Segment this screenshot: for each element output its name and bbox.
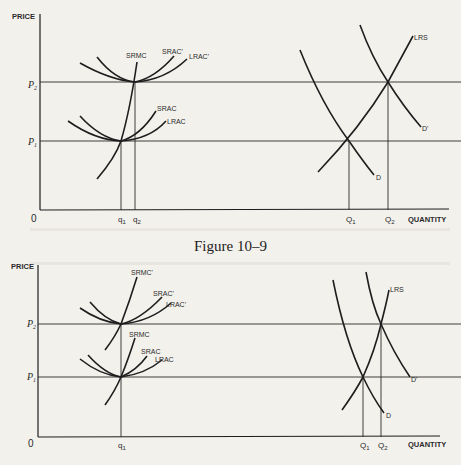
bottom-Q2-label: Q2 xyxy=(378,441,388,451)
top-demand-prime-label: D' xyxy=(422,125,428,132)
figure-page: PRICE QUANTITY 0 P2 P1 q1 q2 Q1 Q2 SRAC'… xyxy=(0,0,461,465)
bottom-lrs-label: LRS xyxy=(390,286,404,293)
top-lrs-curve xyxy=(318,36,413,172)
top-x-axis-label: QUANTITY xyxy=(408,215,446,224)
bottom-p2-label: P2 xyxy=(26,318,36,330)
top-lrac-prime-label: LRAC' xyxy=(189,53,209,60)
top-srac-prime-label: SRAC' xyxy=(162,48,183,55)
figure-caption: Figure 10–9 xyxy=(0,238,461,255)
bottom-demand-label: D xyxy=(386,412,391,419)
top-y-axis-label: PRICE xyxy=(12,12,35,21)
top-lrs-label: LRS xyxy=(414,34,428,41)
top-srmc-label: SRMC xyxy=(126,52,147,59)
top-lrac-curve xyxy=(68,121,166,141)
bottom-lrac-label: LRAC xyxy=(155,356,174,363)
bottom-q1-label: q1 xyxy=(118,441,126,451)
top-demand-label: D xyxy=(376,174,381,181)
top-diagram: PRICE QUANTITY 0 P2 P1 q1 q2 Q1 Q2 SRAC'… xyxy=(12,12,461,225)
bottom-srac-prime-label: SRAC' xyxy=(153,290,174,297)
bottom-x-axis-label: QUANTITY xyxy=(408,440,446,449)
bottom-lrs-curve xyxy=(342,290,389,410)
bottom-srmc-label: SRMC xyxy=(129,331,150,338)
top-lrac-label: LRAC xyxy=(167,118,186,125)
top-srac-label: SRAC xyxy=(157,105,176,112)
bottom-lrac-prime-label: LRAC' xyxy=(166,301,186,308)
top-origin-label: 0 xyxy=(31,213,37,224)
top-q1-label: q1 xyxy=(118,215,126,225)
bottom-srmc-prime-label: SRMC' xyxy=(131,269,153,276)
bottom-srac-label: SRAC xyxy=(141,348,160,355)
top-q2-label: q2 xyxy=(133,215,141,225)
bottom-Q1-label: Q1 xyxy=(360,441,370,451)
top-demand-curve xyxy=(300,50,374,175)
bottom-diagram: PRICE QUANTITY 0 P2 P1 q1 Q1 Q2 SRAC' LR… xyxy=(11,262,461,451)
top-Q2-label: Q2 xyxy=(385,215,395,225)
top-p2-label: P2 xyxy=(27,79,37,91)
economics-diagrams: PRICE QUANTITY 0 P2 P1 q1 q2 Q1 Q2 SRAC'… xyxy=(0,0,461,465)
bottom-p1-label: P1 xyxy=(26,371,36,383)
bottom-x-axis xyxy=(38,436,440,437)
top-lrac-prime-curve xyxy=(80,59,187,82)
bottom-demand-curve xyxy=(333,280,384,413)
top-p1-label: P1 xyxy=(27,136,37,148)
bottom-origin-label: 0 xyxy=(28,438,34,449)
top-Q1-label: Q1 xyxy=(346,215,356,225)
bottom-demand-prime-label: D' xyxy=(411,376,417,383)
bottom-y-axis-label: PRICE xyxy=(11,262,34,271)
